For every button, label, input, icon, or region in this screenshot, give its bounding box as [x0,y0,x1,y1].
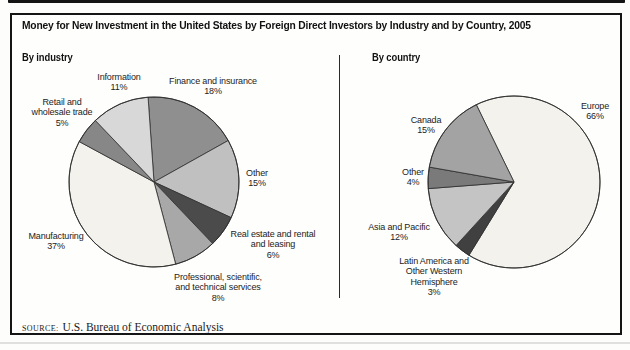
slice-label-asia-and-pacific: Asia and Pacific12% [368,222,430,243]
slice-label-information: Information11% [97,72,140,93]
slice-label-latin-america-and-other-western-hemisphere: Latin America andOther WesternHemisphere… [399,256,469,298]
slice-label-manufacturing: Manufacturing37% [28,231,83,252]
source-text: U.S. Bureau of Economic Analysis [63,321,224,333]
slice-label-other: Other15% [246,168,268,189]
pie-by-industry [69,97,239,267]
slice-label-finance-and-insurance: Finance and insurance18% [169,76,257,97]
source-note: SOURCE: U.S. Bureau of Economic Analysis [22,317,224,335]
scan-edge-bottom [0,342,630,344]
source-label: SOURCE: [22,324,59,333]
figure-page: Money for New Investment in the United S… [0,0,630,350]
pie-by-country [428,96,600,268]
slice-label-real-estate-and-rental-and-leasing: Real estate and rentaland leasing6% [231,229,316,260]
slice-label-canada: Canada15% [411,115,442,136]
slice-label-professional-scientific-and-technical-services: Professional, scientific,and technical s… [174,272,262,303]
pie-charts-canvas [0,0,630,350]
slice-label-other: Other4% [402,167,424,188]
slice-label-europe: Europe66% [581,101,609,122]
slice-label-retail-and-wholesale-trade: Retail andwholesale trade5% [32,97,93,128]
